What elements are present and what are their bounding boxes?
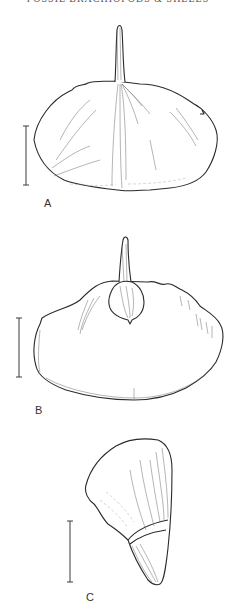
specimen-a-drawing [23, 26, 217, 191]
panel-label-a: A [44, 197, 51, 209]
specimen-c-drawing [67, 439, 172, 585]
fossil-figure: A B C [0, 0, 236, 615]
panel-label-c: C [86, 591, 94, 603]
figure-drawings [0, 0, 236, 615]
specimen-b-drawing [16, 237, 223, 400]
panel-label-b: B [35, 404, 42, 416]
